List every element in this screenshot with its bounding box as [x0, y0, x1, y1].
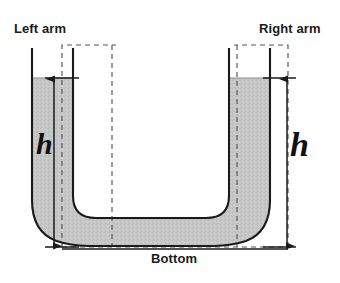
- right-height-symbol: h: [290, 128, 309, 162]
- tube-inner-wall: [73, 48, 229, 218]
- liquid-fill-group: [32, 78, 270, 246]
- liquid-fill-shape: [32, 78, 270, 246]
- right-arm-label: Right arm: [259, 21, 321, 36]
- bottom-label: Bottom: [151, 251, 197, 266]
- u-tube-diagram: Left arm Right arm Bottom h h: [0, 0, 340, 283]
- left-height-symbol: h: [36, 129, 53, 159]
- left-arm-label: Left arm: [14, 21, 66, 36]
